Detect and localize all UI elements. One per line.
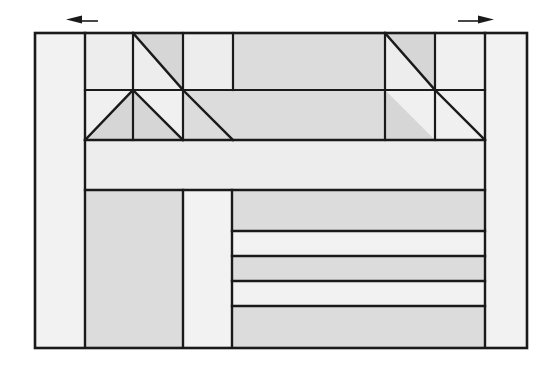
cell-u6-fill [435, 33, 485, 90]
stripe-1 [232, 190, 485, 231]
stripe-5 [232, 306, 485, 347]
right-edge-column [485, 33, 527, 348]
stripe-2 [232, 231, 485, 256]
diagram-canvas: Structural Truss and Wall Assembly Diagr… [0, 0, 560, 369]
lower-left-panel [85, 190, 183, 347]
left-edge-column [35, 33, 85, 348]
cell-u3-fill [183, 33, 233, 90]
cell-u4-fill [233, 33, 385, 90]
structural-diagram-svg [0, 0, 560, 369]
cell-l4-fill [233, 90, 385, 140]
mid-horizontal-band [85, 140, 485, 190]
stripe-3 [232, 256, 485, 281]
cell-u1-fill [85, 33, 133, 90]
stripe-4 [232, 281, 485, 306]
lower-middle-panel [183, 190, 232, 347]
